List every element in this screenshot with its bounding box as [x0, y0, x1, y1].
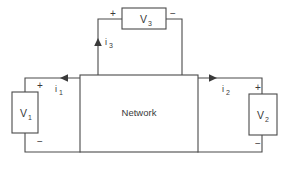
current-i3-arrowhead [94, 38, 102, 46]
current-i1-label: i [55, 84, 57, 94]
source-v2-plus-sign: + [255, 82, 261, 93]
current-i2-label: i [222, 84, 224, 94]
wire-network-to-v2-bottom [198, 135, 262, 152]
wire-network-to-v2-top [198, 78, 262, 94]
wire-v1-top-to-network [25, 78, 80, 92]
wire-v1-bottom-to-network [25, 133, 80, 152]
source-v3-subscript: 3 [148, 20, 152, 27]
source-v2-subscript: 2 [265, 116, 269, 123]
source-v3-minus-sign: − [170, 8, 176, 19]
current-i2-arrowhead [209, 74, 217, 82]
wire-v3-right-to-network [166, 19, 182, 75]
current-i3-label: i [105, 37, 107, 47]
source-v1-subscript: 1 [28, 114, 32, 121]
current-i3-subscript: 3 [109, 42, 113, 49]
source-v3-label: V [140, 13, 147, 25]
source-v2-label: V [257, 109, 264, 121]
source-v3-plus-sign: + [110, 8, 116, 19]
circuit-diagram-canvas: Network V 1 + − V 2 + − V 3 + − i 1 i 2 … [0, 0, 288, 169]
source-v1-minus-sign: − [37, 136, 43, 147]
current-i1-subscript: 1 [59, 89, 63, 96]
circuit-schematic-svg: Network V 1 + − V 2 + − V 3 + − i 1 i 2 … [0, 0, 288, 169]
source-v1-label: V [20, 107, 27, 119]
current-i2-subscript: 2 [226, 89, 230, 96]
network-block-label: Network [122, 107, 157, 118]
source-v1-plus-sign: + [37, 80, 43, 91]
current-i1-arrowhead [60, 74, 68, 82]
source-v2-minus-sign: − [255, 138, 261, 149]
